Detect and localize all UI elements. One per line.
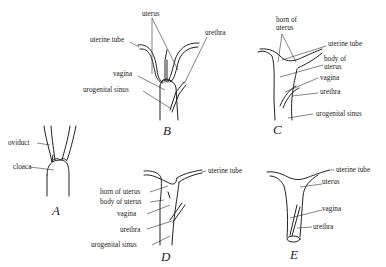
figure-letter-b: B bbox=[163, 123, 171, 138]
figure-b: uterus uterine tube urethra vagina uroge… bbox=[83, 10, 226, 138]
label-urethra-e: urethra bbox=[313, 223, 334, 231]
figure-letter-c: C bbox=[273, 122, 282, 137]
label-cloaca: cloaca bbox=[13, 163, 32, 171]
label-body-of-uterus-1: body of bbox=[324, 55, 347, 63]
label-uterus-e: uterus bbox=[322, 178, 340, 186]
label-uterine-tube: uterine tube bbox=[90, 36, 124, 44]
label-urogenital-sinus-d: urogenital sinus bbox=[91, 241, 137, 249]
label-vagina-e: vagina bbox=[322, 205, 342, 213]
label-uterine-tube-d: uterine tube bbox=[208, 167, 242, 175]
label-body-of-uterus-d: body of uterus bbox=[100, 198, 142, 206]
figure-letter-a: A bbox=[51, 203, 60, 218]
figure-d: uterine tube horn of uterus body of uter… bbox=[91, 167, 242, 264]
label-horn-of-uterus-d: horn of uterus bbox=[100, 188, 141, 196]
label-oviduct: oviduct bbox=[8, 139, 30, 147]
label-horn-of-uterus-2: uterus bbox=[276, 24, 294, 32]
label-vagina-c: vagina bbox=[320, 74, 340, 82]
label-body-of-uterus-2: uterus bbox=[324, 63, 342, 71]
label-urogenital-sinus: urogenital sinus bbox=[83, 86, 129, 94]
label-urethra: urethra bbox=[205, 29, 226, 37]
figure-letter-d: D bbox=[160, 249, 171, 264]
figure-letter-e: E bbox=[289, 247, 298, 262]
figure-a: oviduct cloaca A bbox=[8, 126, 76, 218]
label-vagina: vagina bbox=[113, 70, 133, 78]
label-horn-of-uterus-1: horn of bbox=[276, 16, 298, 24]
label-vagina-d: vagina bbox=[117, 210, 137, 218]
diagram-canvas: oviduct cloaca A uterus uterine tube ure… bbox=[0, 0, 386, 267]
label-urethra-d: urethra bbox=[120, 226, 141, 234]
label-uterus: uterus bbox=[142, 10, 160, 18]
figure-e: uterine tube uterus vagina urethra E bbox=[267, 166, 370, 262]
figure-c: horn of uterus uterine tube body of uter… bbox=[258, 16, 362, 137]
label-urogenital-sinus-c: urogenital sinus bbox=[316, 110, 362, 118]
label-urethra-c: urethra bbox=[320, 88, 341, 96]
label-uterine-tube-e: uterine tube bbox=[336, 166, 370, 174]
label-uterine-tube-c: uterine tube bbox=[328, 40, 362, 48]
